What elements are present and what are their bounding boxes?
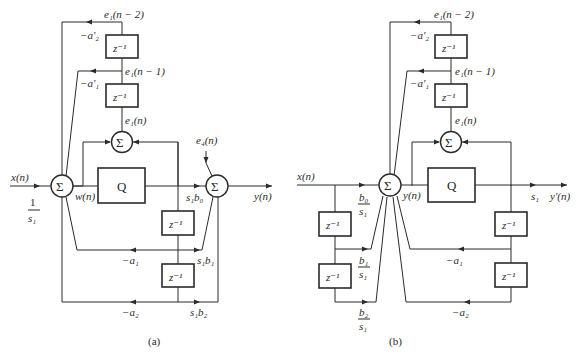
label-b1-num: b₁	[359, 254, 369, 266]
delay-label: z⁻¹	[501, 219, 515, 231]
delay-label: z⁻¹	[112, 42, 126, 54]
sigma-symbol: Σ	[445, 135, 453, 150]
label-b0-num: b₀	[359, 191, 369, 203]
label-b2-num: b₂	[359, 306, 369, 318]
label-y-n-b: y(n)	[402, 189, 421, 202]
input-label-a: x(n)	[10, 171, 29, 184]
delay-label: z⁻¹	[501, 270, 515, 282]
caption-a: (a)	[148, 335, 161, 348]
sigma-symbol: Σ	[384, 178, 392, 193]
label-neg-a1-b: −a₁	[446, 254, 463, 266]
label-s1: s₁	[531, 190, 539, 202]
label-w-n: w(n)	[75, 190, 96, 203]
label-s1b2: s₁b₂	[190, 306, 208, 318]
caption-b: (b)	[389, 335, 402, 348]
panel-a: e₁(n − 2) −a′₂ e₁(n − 1) −a′₁ e₁(n) z⁻¹ …	[10, 8, 272, 348]
label-e4-n: e₄(n)	[196, 134, 218, 147]
sigma-symbol: Σ	[56, 179, 64, 194]
output-label-a: y(n)	[253, 190, 272, 203]
label-e1-n-a: e₁(n)	[125, 114, 147, 127]
output-label-b: y′(n)	[549, 190, 570, 203]
input-gain-den-a: s₁	[28, 212, 36, 224]
sigma-symbol: Σ	[211, 179, 219, 194]
sigma-symbol: Σ	[116, 135, 124, 150]
block-diagram-canvas: e₁(n − 2) −a′₂ e₁(n − 1) −a′₁ e₁(n) z⁻¹ …	[0, 0, 578, 356]
label-s1b1: s₁b₁	[197, 254, 215, 266]
label-neg-a2-prime-b: −a′₂	[410, 29, 429, 41]
label-e1-n-minus-1-a: e₁(n − 1)	[125, 65, 165, 78]
label-neg-a2-a: −a₂	[122, 306, 139, 318]
label-b2-den: s₁	[359, 320, 367, 332]
input-label-b: x(n)	[296, 170, 315, 183]
input-gain-num-a: 1	[30, 196, 36, 208]
panel-b: e₁(n − 2) −a′₂ e₁(n − 1) −a′₁ e₁(n) z⁻¹ …	[296, 8, 570, 348]
label-neg-a1-prime-b: −a′₁	[410, 77, 429, 89]
delay-label: z⁻¹	[112, 91, 126, 103]
label-e1-n-minus-1-b: e₁(n − 1)	[455, 65, 495, 78]
label-neg-a1-prime-a: −a′₁	[80, 77, 99, 89]
label-s1b0: s₁b₀	[186, 191, 204, 203]
delay-label: z⁻¹	[168, 218, 182, 230]
delay-label: z⁻¹	[325, 219, 339, 231]
label-neg-a1-a: −a₁	[122, 254, 139, 266]
label-e1-n-b: e₁(n)	[455, 114, 477, 127]
delay-label: z⁻¹	[441, 42, 455, 54]
delay-label: z⁻¹	[168, 271, 182, 283]
quantizer-label-a: Q	[117, 179, 127, 194]
quantizer-label-b: Q	[447, 178, 457, 193]
label-e1-n-minus-2-a: e₁(n − 2)	[104, 8, 144, 21]
label-neg-a2-prime-a: −a′₂	[80, 29, 99, 41]
label-e1-n-minus-2-b: e₁(n − 2)	[434, 8, 474, 21]
delay-label: z⁻¹	[441, 91, 455, 103]
delay-label: z⁻¹	[325, 271, 339, 283]
label-neg-a2-b: −a₂	[452, 306, 469, 318]
label-b0-den: s₁	[359, 205, 367, 217]
label-b1-den: s₁	[359, 268, 367, 280]
